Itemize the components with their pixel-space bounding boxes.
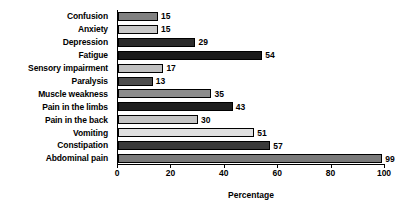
bar-value-label: 43 — [236, 103, 245, 112]
bar: 54 — [118, 51, 262, 60]
bar: 30 — [118, 115, 198, 124]
bar-row: 15 — [118, 23, 385, 36]
bar-value-label: 15 — [161, 25, 170, 34]
category-label: Abdominal pain — [0, 152, 113, 165]
x-axis-title: Percentage — [117, 190, 385, 200]
bar-row: 57 — [118, 139, 385, 152]
category-label: Pain in the limbs — [0, 100, 113, 113]
bar-row: 13 — [118, 75, 385, 88]
bar-value-label: 15 — [161, 12, 170, 21]
bar-value-label: 51 — [257, 129, 266, 138]
bar: 57 — [118, 141, 270, 150]
bar-value-label: 17 — [166, 64, 175, 73]
category-label: Pain in the back — [0, 113, 113, 126]
bar: 99 — [118, 154, 382, 163]
category-label: Depression — [0, 36, 113, 49]
category-label: Constipation — [0, 139, 113, 152]
bar-row: 99 — [118, 152, 385, 165]
category-label: Sensory impairment — [0, 62, 113, 75]
category-label: Anxiety — [0, 23, 113, 36]
x-axis-tick-label: 0 — [115, 168, 120, 178]
bar-value-label: 30 — [201, 116, 210, 125]
plot-area: 151529541713354330515799 — [117, 10, 385, 165]
bar-row: 43 — [118, 100, 385, 113]
category-label: Muscle weakness — [0, 88, 113, 101]
x-axis-tick-label: 20 — [166, 168, 175, 178]
bar: 43 — [118, 102, 233, 111]
bar-row: 35 — [118, 88, 385, 101]
bar-row: 29 — [118, 36, 385, 49]
x-axis-tick-label: 100 — [377, 168, 391, 178]
bar-value-label: 99 — [385, 154, 394, 163]
x-axis-ticks: 020406080100 — [117, 165, 385, 179]
x-axis-tick-label: 60 — [272, 168, 281, 178]
bar: 51 — [118, 128, 254, 137]
bar: 13 — [118, 77, 153, 86]
bar-chart: Confusion Anxiety Depression Fatigue Sen… — [0, 0, 410, 214]
bar-value-label: 57 — [273, 141, 282, 150]
category-label: Fatigue — [0, 49, 113, 62]
bar-series: 151529541713354330515799 — [118, 10, 385, 165]
bar-value-label: 29 — [198, 38, 207, 47]
bar: 17 — [118, 64, 163, 73]
category-label: Vomiting — [0, 126, 113, 139]
x-axis-tick-label: 40 — [219, 168, 228, 178]
bar-row: 17 — [118, 62, 385, 75]
bar: 29 — [118, 38, 195, 47]
bar-value-label: 54 — [265, 51, 274, 60]
bar-row: 15 — [118, 10, 385, 23]
category-label-column: Confusion Anxiety Depression Fatigue Sen… — [0, 10, 113, 165]
category-label: Confusion — [0, 10, 113, 23]
category-label: Paralysis — [0, 75, 113, 88]
bar: 35 — [118, 89, 211, 98]
bar-row: 30 — [118, 113, 385, 126]
bar-value-label: 13 — [156, 77, 165, 86]
bar-row: 51 — [118, 126, 385, 139]
x-axis-tick-label: 80 — [326, 168, 335, 178]
bar: 15 — [118, 25, 158, 34]
bar: 15 — [118, 12, 158, 21]
bar-row: 54 — [118, 49, 385, 62]
bar-value-label: 35 — [214, 90, 223, 99]
